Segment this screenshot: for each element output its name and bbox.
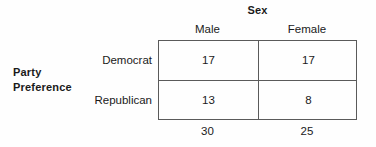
column-header-female: Female (257, 22, 357, 36)
column-header-male: Male (158, 22, 257, 36)
cell-republican-female: 8 (259, 81, 358, 120)
column-total-male: 30 (158, 124, 257, 138)
column-total-female: 25 (257, 124, 357, 138)
table-grid: 17 17 13 8 (158, 40, 357, 120)
cell-democrat-female: 17 (259, 41, 358, 80)
row-header-democrat: Democrat (32, 53, 152, 67)
contingency-table-figure: Sex Male Female Party Preference Democra… (0, 0, 376, 147)
cell-democrat-male: 17 (159, 41, 258, 80)
row-header-republican: Republican (32, 93, 152, 107)
row-group-label: Party Preference (13, 65, 72, 94)
row-group-label-line2: Preference (13, 80, 72, 95)
row-group-label-line1: Party (13, 65, 72, 80)
cell-republican-male: 13 (159, 81, 258, 120)
column-group-label: Sex (158, 4, 357, 17)
